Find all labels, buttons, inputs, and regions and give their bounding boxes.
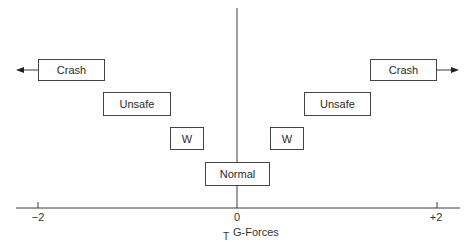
zone-unsafe-left: Unsafe xyxy=(103,92,171,116)
zone-crash-left: Crash xyxy=(38,59,105,81)
zone-label: Unsafe xyxy=(320,98,355,110)
zone-label: Crash xyxy=(57,64,86,76)
tick-label-zero: 0 xyxy=(234,211,240,223)
zone-label: Unsafe xyxy=(120,98,155,110)
tick-label-plus-2: +2 xyxy=(430,211,443,223)
axis-title-prefix: T xyxy=(223,231,229,242)
zone-label: Normal xyxy=(220,168,255,180)
zone-w-left: W xyxy=(170,127,204,150)
zone-normal: Normal xyxy=(205,162,270,186)
zone-label: W xyxy=(182,133,192,145)
zone-unsafe-right: Unsafe xyxy=(304,92,371,116)
zone-label: W xyxy=(282,133,292,145)
zone-w-right: W xyxy=(270,127,304,150)
zone-crash-right: Crash xyxy=(370,59,437,81)
tick-label-minus-2: −2 xyxy=(32,211,45,223)
axis-title: G-Forces xyxy=(233,226,279,238)
arrow-right-icon xyxy=(451,67,459,73)
zone-label: Crash xyxy=(389,64,418,76)
arrow-left-icon xyxy=(16,67,24,73)
